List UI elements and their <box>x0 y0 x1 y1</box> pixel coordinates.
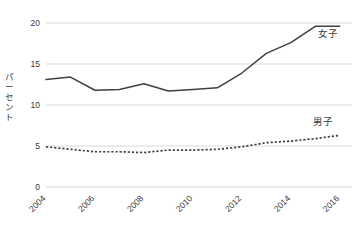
y-axis-tick-labels: 20151050 <box>31 18 41 192</box>
y-axis-tick-label: 5 <box>35 141 40 151</box>
x-axis-tick-label: 2014 <box>272 193 293 214</box>
series-labels: 女子男子 <box>313 28 338 127</box>
series-line <box>46 135 340 152</box>
series-line <box>46 26 340 91</box>
y-axis-tick-label: 0 <box>35 182 40 192</box>
y-axis-tick-label: 15 <box>31 59 41 69</box>
x-axis-tick-label: 2012 <box>223 193 244 214</box>
data-series <box>46 26 340 152</box>
line-chart: パーセント 20151050 2004200620082010201220142… <box>0 0 356 225</box>
x-axis-tick-label: 2010 <box>174 193 195 214</box>
x-axis-tick-label: 2004 <box>27 193 48 214</box>
series-label: 女子 <box>318 28 338 39</box>
x-axis-tick-labels: 2004200620082010201220142016 <box>27 193 341 214</box>
x-axis-tick-label: 2006 <box>76 193 97 214</box>
plot-area: 20151050 2004200620082010201220142016 女子… <box>0 0 356 225</box>
gridlines <box>46 23 352 187</box>
x-axis-tick-label: 2016 <box>321 193 342 214</box>
y-axis-tick-label: 20 <box>31 18 41 28</box>
series-label: 男子 <box>313 116 333 127</box>
y-axis-tick-label: 10 <box>31 100 41 110</box>
x-axis-tick-label: 2008 <box>125 193 146 214</box>
